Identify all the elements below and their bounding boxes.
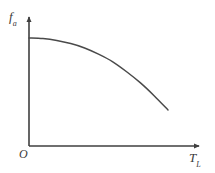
data-curve <box>29 38 168 110</box>
x-axis-subscript: L <box>196 160 200 169</box>
y-axis-label: fa <box>9 10 17 27</box>
y-axis-subscript: a <box>13 19 17 28</box>
x-axis-label: TL <box>189 151 201 168</box>
origin-label: O <box>19 148 28 160</box>
chart-canvas <box>0 0 215 173</box>
chart-figure: fa TL O <box>0 0 215 173</box>
